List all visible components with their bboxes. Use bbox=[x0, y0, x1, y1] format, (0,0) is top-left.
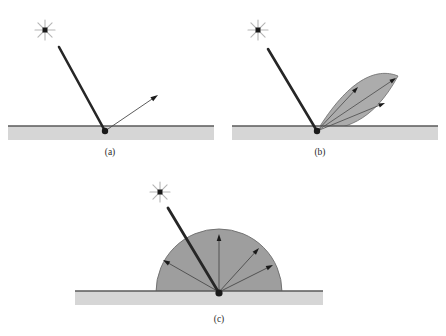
light-source-star-ray bbox=[260, 23, 265, 28]
light-source-star-ray bbox=[153, 185, 158, 190]
panel-c: (c) bbox=[75, 182, 323, 325]
light-source-star bbox=[35, 20, 55, 40]
light-source-star bbox=[150, 182, 170, 202]
light-source-star-ray bbox=[162, 194, 167, 199]
surface-bar bbox=[75, 291, 323, 305]
light-source-star-ray bbox=[260, 32, 265, 37]
light-source-star-ray bbox=[251, 23, 256, 28]
hit-point-dot bbox=[102, 128, 108, 134]
panel-label-a: (a) bbox=[105, 147, 116, 158]
reflected-ray-head bbox=[150, 95, 158, 101]
surface-bar bbox=[8, 126, 214, 140]
incident-ray bbox=[268, 49, 317, 131]
light-source-star-core bbox=[256, 28, 261, 33]
light-source-star-ray bbox=[38, 32, 43, 37]
panel-b: (b) bbox=[232, 20, 438, 158]
light-source-star-ray bbox=[47, 23, 52, 28]
light-source-star-ray bbox=[47, 32, 52, 37]
light-source-star-core bbox=[158, 190, 163, 195]
panel-a: (a) bbox=[8, 20, 214, 158]
hit-point-dot bbox=[215, 289, 222, 296]
panels-group: (a)(b)(c) bbox=[8, 20, 438, 325]
light-source-star bbox=[248, 20, 268, 40]
figure-canvas: (a)(b)(c) bbox=[0, 0, 446, 336]
lobe-ray-outer-lower-head bbox=[378, 103, 385, 107]
panel-label-b: (b) bbox=[314, 147, 325, 158]
hit-point-dot bbox=[314, 128, 320, 134]
light-source-star-ray bbox=[153, 194, 158, 199]
light-source-star-ray bbox=[251, 32, 256, 37]
light-source-star-ray bbox=[38, 23, 43, 28]
reflection-models-figure: (a)(b)(c) bbox=[0, 0, 446, 336]
light-source-star-core bbox=[43, 28, 48, 33]
light-source-star-ray bbox=[162, 185, 167, 190]
panel-label-c: (c) bbox=[214, 314, 225, 325]
incident-ray bbox=[59, 47, 105, 131]
specular-lobe bbox=[317, 73, 398, 131]
surface-bar bbox=[232, 126, 438, 140]
